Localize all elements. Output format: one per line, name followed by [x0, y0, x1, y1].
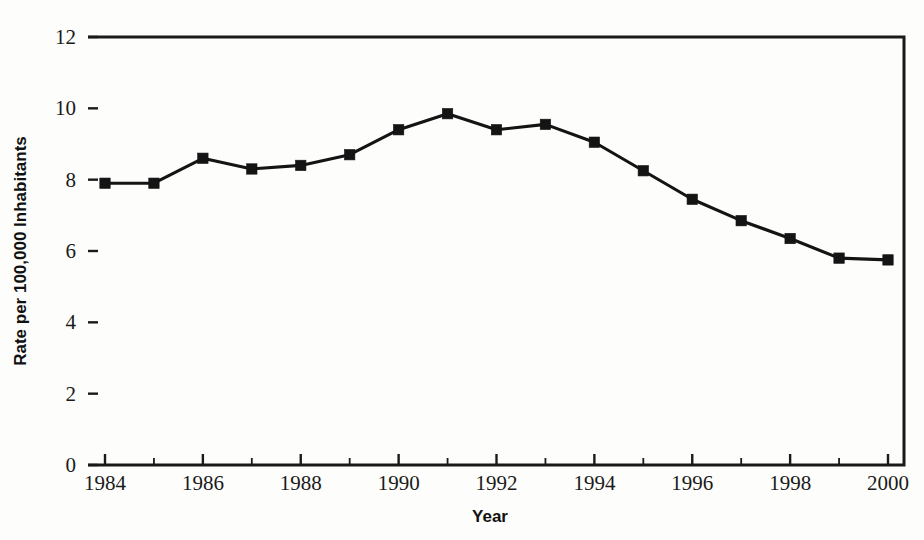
x-tick-label: 1990 [378, 471, 420, 495]
y-tick-label: 0 [66, 453, 77, 477]
y-axis-ticks [88, 37, 98, 465]
x-tick-label: 2000 [867, 471, 909, 495]
y-tick-label: 12 [55, 25, 76, 49]
data-point-marker [491, 125, 501, 135]
x-tick-label: 1994 [573, 471, 616, 495]
data-series-group [100, 108, 893, 265]
y-axis-title: Rate per 100,000 Inhabitants [11, 136, 30, 366]
data-point-marker [638, 166, 648, 176]
data-point-marker [540, 119, 550, 129]
series-line-rate [105, 114, 888, 260]
plot-area-frame [88, 37, 904, 465]
y-axis-tick-labels: 024681012 [55, 25, 77, 477]
data-point-marker [149, 178, 159, 188]
data-point-marker [834, 253, 844, 263]
data-point-marker [785, 233, 795, 243]
x-tick-label: 1984 [84, 471, 127, 495]
x-axis-tick-labels: 198419861988199019921994199619982000 [84, 471, 909, 495]
x-tick-label: 1998 [769, 471, 811, 495]
data-point-marker [736, 215, 746, 225]
series-markers-rate [100, 108, 893, 265]
y-tick-label: 8 [66, 168, 77, 192]
x-tick-label: 1986 [182, 471, 224, 495]
x-axis-title: Year [472, 507, 508, 526]
data-point-marker [687, 194, 697, 204]
y-tick-label: 6 [66, 239, 77, 263]
data-point-marker [100, 178, 110, 188]
y-tick-label: 2 [66, 382, 77, 406]
data-point-marker [198, 153, 208, 163]
line-chart: 024681012 198419861988199019921994199619… [0, 0, 924, 540]
data-point-marker [883, 255, 893, 265]
data-point-marker [296, 160, 306, 170]
data-point-marker [442, 108, 452, 118]
x-tick-label: 1996 [671, 471, 713, 495]
data-point-marker [393, 125, 403, 135]
y-tick-label: 4 [66, 310, 77, 334]
x-tick-label: 1988 [280, 471, 322, 495]
x-axis-ticks [105, 454, 888, 465]
data-point-marker [589, 137, 599, 147]
x-tick-label: 1992 [476, 471, 518, 495]
data-point-marker [247, 164, 257, 174]
chart-container: 024681012 198419861988199019921994199619… [0, 0, 924, 540]
y-tick-label: 10 [55, 96, 76, 120]
data-point-marker [344, 150, 354, 160]
axis-frame [88, 37, 904, 465]
